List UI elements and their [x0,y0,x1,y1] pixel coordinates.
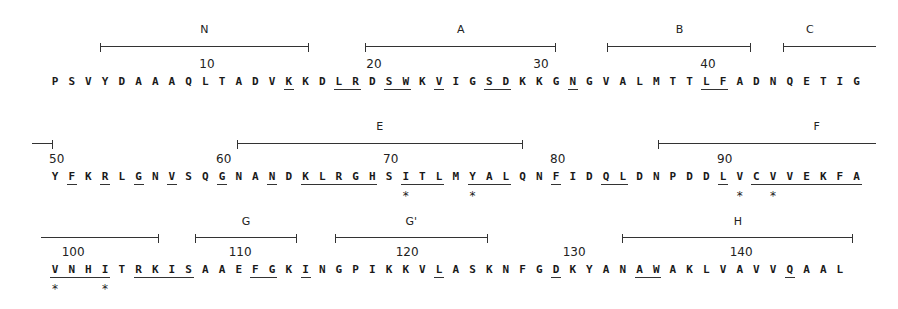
residue: K [533,76,545,88]
secondary-structure-bar [623,237,852,238]
residue: A [483,171,495,183]
residue: A [450,264,462,276]
secondary-structure-bar [659,143,876,144]
secondary-structure-bar [101,46,308,47]
residue-number-label: 50 [49,153,64,165]
secondary-structure-bar [238,143,522,144]
residue-number-label: 90 [717,153,732,165]
residue-number-label: 20 [366,58,381,70]
underline-mark [67,184,77,185]
residue: H [366,171,378,183]
residue: I [834,76,846,88]
residue: L [433,264,445,276]
residue: N [533,171,545,183]
residue: S [467,264,479,276]
underline-mark [301,277,311,278]
residue: D [116,76,128,88]
residue: G [467,76,479,88]
residue: A [166,76,178,88]
residue: T [684,76,696,88]
residue: D [283,171,295,183]
underline-mark [167,184,177,185]
bar-end-tick [52,140,53,149]
residue: P [49,76,61,88]
residue: Q [183,76,195,88]
underline-mark [284,89,294,90]
residue: Y [99,76,111,88]
bar-end-tick [607,43,608,52]
secondary-structure-label: G [242,216,251,227]
residue: A [149,76,161,88]
residue: N [149,171,161,183]
residue: L [700,264,712,276]
residue: Q [199,171,211,183]
asterisk-marker: * [400,190,412,202]
residue: A [199,264,211,276]
underline-mark [701,89,728,90]
underline-mark [134,184,144,185]
residue: R [99,171,111,183]
underline-mark [484,89,511,90]
sequence-figure: PSVYDAAAQLTADVKKDLRDSWKVIGSDKKGNGVALMTTL… [0,0,898,309]
residue: I [300,264,312,276]
asterisk-marker: * [767,190,779,202]
residue: L [316,171,328,183]
bar-end-tick [522,140,523,149]
residue: V [750,264,762,276]
residue: V [433,76,445,88]
residue: G [333,264,345,276]
residue: G [550,76,562,88]
residue-number-label: 130 [563,246,586,258]
residue: D [316,76,328,88]
residue: S [183,264,195,276]
residue: V [734,171,746,183]
secondary-structure-label: N [200,24,208,35]
residue: I [99,264,111,276]
residue: G [350,171,362,183]
residue: G [133,171,145,183]
underline-mark [551,184,561,185]
secondary-structure-bar [196,237,296,238]
residue: K [483,264,495,276]
residue: D [249,76,261,88]
underline-mark [601,184,628,185]
bar-end-tick [750,43,751,52]
residue-number-label: 100 [62,246,85,258]
underline-mark [568,89,578,90]
residue: Q [600,171,612,183]
residue: T [667,76,679,88]
residue: F [550,171,562,183]
residue-number-label: 10 [199,58,214,70]
residue: R [333,171,345,183]
residue: C [750,171,762,183]
residue: V [767,264,779,276]
residue: L [717,171,729,183]
underline-mark [434,277,444,278]
residue: S [66,76,78,88]
residue: T [216,76,228,88]
bar-end-tick [195,234,196,243]
residue: Y [583,264,595,276]
residue: K [416,76,428,88]
bar-end-tick [365,43,366,52]
residue: R [350,76,362,88]
residue: M [450,171,462,183]
residue: V [600,76,612,88]
residue-number-label: 80 [550,153,565,165]
residue: P [667,171,679,183]
residue: S [383,171,395,183]
residue: K [283,76,295,88]
residue: F [66,171,78,183]
residue: A [851,171,863,183]
underline-mark [635,277,662,278]
residue: K [149,264,161,276]
residue: K [300,171,312,183]
residue: H [82,264,94,276]
secondary-structure-bar [336,237,486,238]
residue-number-label: 70 [383,153,398,165]
secondary-structure-label: A [457,24,465,35]
residue: L [700,76,712,88]
underline-mark [718,184,728,185]
residue: E [801,76,813,88]
bar-end-tick [622,234,623,243]
